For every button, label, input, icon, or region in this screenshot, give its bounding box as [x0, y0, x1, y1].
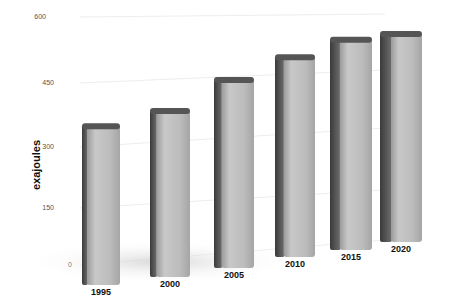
- y-tick-label: 450: [42, 79, 54, 86]
- x-tick-label: 2020: [391, 244, 411, 254]
- bar-2010: [275, 54, 315, 257]
- bar-2005: [214, 77, 254, 268]
- bar-2020: [380, 31, 422, 242]
- y-tick-label: 150: [42, 204, 54, 211]
- bar-1995: [82, 123, 120, 285]
- x-tick-label: 2000: [160, 279, 180, 289]
- x-tick-label: 1995: [91, 287, 111, 297]
- bar-2015: [330, 37, 372, 250]
- y-tick-label: 600: [34, 13, 46, 20]
- x-tick-label: 2005: [224, 270, 244, 280]
- y-axis-label: exajoules: [30, 140, 42, 190]
- y-tick-label: 300: [42, 143, 54, 150]
- bar-2000: [150, 108, 190, 277]
- bar-chart: 0150300450600 exajoules 1995200020052010…: [0, 0, 449, 303]
- x-tick-label: 2010: [285, 259, 305, 269]
- gridline: [80, 14, 385, 17]
- x-tick-label: 2015: [341, 252, 361, 262]
